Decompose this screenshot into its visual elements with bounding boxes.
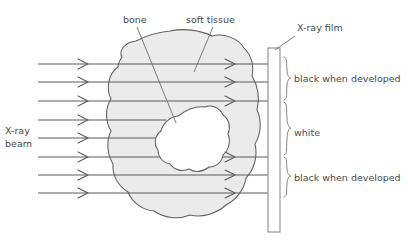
film-region-braces xyxy=(284,57,291,197)
label-xray-beam-line1: X-ray xyxy=(5,125,30,136)
label-black-when-developed-bottom: black when developed xyxy=(294,172,401,183)
label-white-middle: white xyxy=(294,127,320,138)
diagram-svg: bone soft tissue X-ray film X-ray beam b… xyxy=(0,0,408,246)
label-soft-tissue: soft tissue xyxy=(186,14,235,25)
leader-xray-film xyxy=(275,36,295,50)
brace-region-bottom xyxy=(284,157,291,197)
label-xray-beam-line2: beam xyxy=(5,138,32,149)
xray-film-bar xyxy=(268,48,280,232)
label-xray-film: X-ray film xyxy=(297,22,343,33)
xray-diagram-canvas: bone soft tissue X-ray film X-ray beam b… xyxy=(0,0,408,246)
brace-region-top xyxy=(284,57,291,100)
brace-region-middle xyxy=(284,102,291,155)
label-black-when-developed-top: black when developed xyxy=(294,73,401,84)
label-bone: bone xyxy=(123,14,147,25)
